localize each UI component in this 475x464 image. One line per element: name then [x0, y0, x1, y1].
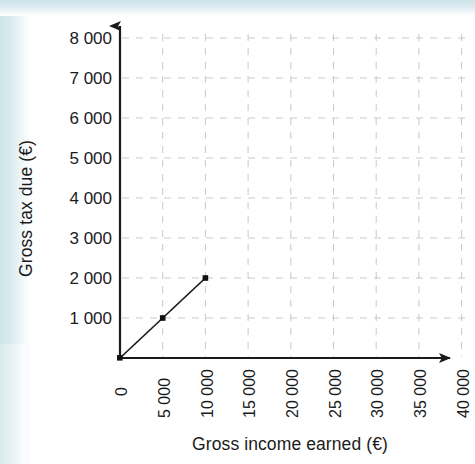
y-tick-label: 3 000 — [36, 229, 112, 249]
x-tick-label: 25 000 — [327, 369, 345, 418]
data-point-marker — [203, 275, 209, 281]
y-tick-label-group: 8 000 7 000 6 000 5 000 4 000 3 000 2 00… — [36, 0, 112, 464]
gridlines-vertical — [163, 34, 462, 357]
y-tick-label: 5 000 — [36, 149, 112, 169]
x-tick-label: 5 000 — [156, 378, 174, 418]
x-tick-label: 20 000 — [284, 369, 302, 418]
scanned-page: Gross tax due (€) 8 000 7 000 6 000 5 00… — [0, 0, 475, 464]
x-tick-label: 0 — [113, 387, 131, 396]
y-tick-label: 8 000 — [36, 29, 112, 49]
x-tick-label: 40 000 — [455, 369, 473, 418]
gridlines-horizontal — [122, 38, 468, 318]
data-point-marker — [117, 355, 123, 361]
y-tick-label: 7 000 — [36, 69, 112, 89]
x-tick-label: 30 000 — [369, 369, 387, 418]
y-tick-label: 4 000 — [36, 189, 112, 209]
y-tick-label: 6 000 — [36, 109, 112, 129]
y-axis-title: Gross tax due (€) — [16, 109, 37, 309]
x-axis-title: Gross income earned (€) — [120, 434, 460, 455]
data-point-marker — [160, 315, 166, 321]
y-tick-label: 1 000 — [36, 309, 112, 329]
x-tick-label: 35 000 — [412, 369, 430, 418]
x-tick-label: 10 000 — [199, 369, 217, 418]
x-tick-label: 15 000 — [241, 369, 259, 418]
y-tick-label: 2 000 — [36, 269, 112, 289]
